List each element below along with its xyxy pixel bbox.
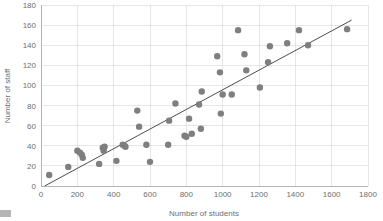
data-point	[113, 158, 119, 164]
data-point	[122, 144, 128, 150]
data-point	[344, 26, 350, 32]
y-tick-label: 60	[27, 122, 36, 131]
chart-canvas: 020406080100120140160180 020040060080010…	[0, 0, 383, 221]
x-tick-label: 600	[143, 190, 157, 199]
data-point	[257, 84, 263, 90]
x-tick-label: 200	[71, 190, 85, 199]
x-tick-label: 1400	[286, 190, 304, 199]
data-point	[96, 161, 102, 167]
data-point	[80, 155, 86, 161]
data-point	[136, 123, 142, 129]
data-point	[165, 142, 171, 148]
x-axis-title: Number of students	[169, 209, 239, 218]
data-point	[218, 110, 224, 116]
y-tick-label: 100	[23, 81, 37, 90]
data-point	[267, 43, 273, 49]
data-point	[172, 100, 178, 106]
data-point	[235, 27, 241, 33]
data-point	[296, 27, 302, 33]
gridlines	[41, 5, 368, 186]
data-point	[196, 101, 202, 107]
y-tick-label: 40	[27, 142, 36, 151]
y-tick-label: 80	[27, 102, 36, 111]
data-point	[305, 42, 311, 48]
x-tick-label: 1600	[323, 190, 341, 199]
data-point	[229, 91, 235, 97]
corner-mark	[0, 210, 11, 217]
y-tick-label: 160	[23, 21, 37, 30]
data-point	[65, 164, 71, 170]
data-point	[147, 159, 153, 165]
data-point	[243, 67, 249, 73]
data-point	[166, 117, 172, 123]
plot-border	[41, 5, 368, 186]
data-point	[284, 40, 290, 46]
data-point	[46, 172, 52, 178]
x-tick-label: 800	[180, 190, 194, 199]
data-point	[265, 59, 271, 65]
x-axis-tick-labels: 020040060080010001200140016001800	[39, 190, 378, 199]
data-point	[199, 88, 205, 94]
y-axis-title: Number of staff	[3, 68, 12, 123]
x-tick-label: 1200	[250, 190, 268, 199]
x-tick-label: 400	[107, 190, 121, 199]
data-point	[219, 91, 225, 97]
data-point	[186, 115, 192, 121]
data-point	[143, 142, 149, 148]
data-point	[189, 131, 195, 137]
data-point	[134, 107, 140, 113]
y-tick-label: 0	[32, 182, 37, 191]
data-point	[217, 69, 223, 75]
data-point	[101, 144, 107, 150]
y-axis-tick-labels: 020406080100120140160180	[23, 1, 37, 191]
data-point	[241, 51, 247, 57]
data-point	[183, 134, 189, 140]
data-point	[214, 53, 220, 59]
y-tick-label: 120	[23, 61, 37, 70]
y-tick-label: 180	[23, 1, 37, 10]
x-tick-label: 0	[39, 190, 44, 199]
x-tick-label: 1000	[214, 190, 232, 199]
data-points	[46, 26, 350, 178]
y-tick-label: 140	[23, 41, 37, 50]
x-tick-label: 1800	[359, 190, 377, 199]
scatter-chart-page: 020406080100120140160180 020040060080010…	[0, 0, 383, 221]
data-point	[198, 125, 204, 131]
y-tick-label: 20	[27, 162, 36, 171]
